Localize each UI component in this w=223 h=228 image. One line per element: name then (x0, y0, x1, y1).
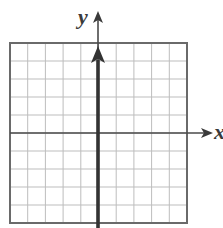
coordinate-plane: y x (0, 0, 223, 228)
y-axis-label: y (75, 4, 88, 29)
x-axis-label: x (213, 119, 223, 144)
